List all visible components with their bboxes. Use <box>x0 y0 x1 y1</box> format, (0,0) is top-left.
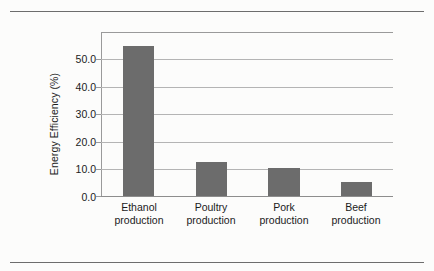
y-axis-title: Energy Efficiency (%) <box>48 44 60 204</box>
y-tick-label-20: 20.0 <box>62 136 96 147</box>
bar-beef-production <box>341 182 372 196</box>
y-tick-mark-10 <box>96 169 101 170</box>
category-label-beef-line2: production <box>315 214 397 227</box>
plot-area <box>101 32 393 197</box>
y-tick-mark-20 <box>96 142 101 143</box>
y-tick-label-40: 40.0 <box>62 81 96 92</box>
bar-chart: Energy Efficiency (%) 50.0 40.0 30.0 20.… <box>0 14 434 260</box>
y-tick-label-10: 10.0 <box>62 164 96 175</box>
x-axis-category-labels: Ethanol production Poultry production Po… <box>101 201 393 241</box>
bar-poultry-production <box>196 162 227 197</box>
y-tick-label-50: 50.0 <box>62 54 96 65</box>
page-rule-bottom <box>10 262 424 263</box>
category-label-poultry-line2: production <box>170 214 252 227</box>
category-label-ethanol-line2: production <box>98 214 180 227</box>
y-axis-tick-labels: 50.0 40.0 30.0 20.0 10.0 0.0 <box>62 14 96 214</box>
category-label-ethanol-line1: Ethanol <box>98 201 180 214</box>
category-label-beef-line1: Beef <box>315 201 397 214</box>
bar-ethanol-production <box>123 46 154 196</box>
y-tick-mark-0 <box>96 196 101 197</box>
y-tick-mark-40 <box>96 87 101 88</box>
category-label-poultry-line1: Poultry <box>170 201 252 214</box>
category-label-ethanol: Ethanol production <box>98 201 180 227</box>
bar-pork-production <box>268 168 300 196</box>
category-label-pork: Pork production <box>243 201 325 227</box>
figure-page: Energy Efficiency (%) 50.0 40.0 30.0 20.… <box>0 0 434 271</box>
plot-top-border <box>101 32 393 33</box>
category-label-pork-line1: Pork <box>243 201 325 214</box>
category-label-pork-line2: production <box>243 214 325 227</box>
y-tick-label-0: 0.0 <box>62 192 96 203</box>
y-tick-label-30: 30.0 <box>62 109 96 120</box>
y-tick-mark-50 <box>96 59 101 60</box>
page-rule-top <box>10 11 424 12</box>
category-label-beef: Beef production <box>315 201 397 227</box>
category-label-poultry: Poultry production <box>170 201 252 227</box>
x-axis-line <box>101 196 393 197</box>
y-tick-mark-30 <box>96 114 101 115</box>
